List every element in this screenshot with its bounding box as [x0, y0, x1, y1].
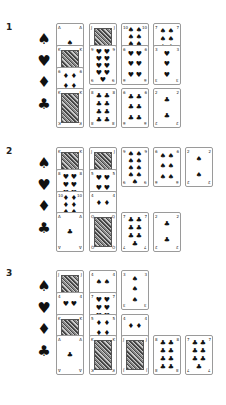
card-index: 8 — [91, 91, 94, 95]
suit-pip-icon: ♣ — [159, 364, 166, 371]
playing-card: 9999♠♠♠♠♠♠♠♠♠ — [121, 147, 149, 187]
diamonds-suit-icon: ♦ — [37, 322, 51, 337]
card-index: J — [91, 150, 92, 154]
playing-card: QQQQ — [89, 212, 117, 252]
section-number: 1 — [6, 22, 12, 32]
card-index: 6 — [123, 121, 126, 125]
card-pips: ♥♥♥♥♥♥♥♥♥ — [95, 49, 111, 81]
suit-pip-icon: ♠ — [191, 156, 207, 163]
card-index: 2 — [155, 215, 158, 219]
playing-card: 9999♥♥♥♥♥♥♥♥♥ — [89, 45, 117, 85]
clubs-suit-icon: ♣ — [37, 344, 51, 359]
card-index: 8 — [176, 338, 179, 342]
suit-pip-icon: ♣ — [95, 101, 102, 108]
card-index: 6 — [79, 70, 82, 74]
card-index: 2 — [187, 180, 190, 184]
card-index: 6 — [123, 78, 126, 82]
suit-pip-icon: ♠ — [131, 179, 138, 186]
card-index: J — [146, 338, 147, 342]
suit-pip-icon: ♥ — [159, 72, 175, 79]
card-index: J — [58, 273, 59, 277]
card-index: 8 — [58, 172, 61, 176]
card-index: 8 — [112, 91, 115, 95]
suit-pip-icon: ♠ — [127, 276, 143, 283]
playing-card: 8888♣♣♣♣♣♣♣♣ — [153, 335, 181, 375]
suit-pip-icon: ♠ — [167, 36, 174, 43]
card-pips: ♠♠♠♠♠♠ — [159, 151, 175, 183]
face-card-portrait — [126, 340, 144, 370]
suit-pip-icon: ♣ — [191, 356, 198, 363]
card-index: 4 — [112, 194, 115, 198]
suit-pip-icon: ♠ — [167, 174, 174, 181]
playing-card: 3333♥♥♥ — [153, 45, 181, 85]
suit-pip-icon: ♣ — [199, 348, 206, 355]
card-index: 4 — [112, 273, 115, 277]
suit-pip-icon: ♠ — [159, 153, 166, 160]
suit-pip-icon: ♥ — [70, 301, 77, 308]
card-index: J — [91, 26, 92, 30]
suit-pip-icon: ♦ — [95, 200, 102, 207]
card-index: 5 — [112, 317, 115, 321]
suit-pip-icon: ♣ — [95, 109, 102, 116]
card-pips: ♠♠♠♠♠♠♠♠♠ — [127, 151, 143, 183]
suit-pip-icon: ♣ — [199, 356, 206, 363]
playing-card: 2222♣♣ — [153, 212, 181, 252]
suit-pip-icon: ♥ — [159, 51, 175, 58]
suit-pip-icon: ♣ — [135, 115, 142, 122]
card-index: 2 — [208, 150, 211, 154]
card-pips: ♣ — [62, 216, 78, 248]
card-index: 2 — [155, 245, 158, 249]
section-number: 3 — [6, 268, 12, 278]
suit-pip-icon: ♣ — [127, 225, 134, 232]
card-index: 6 — [155, 150, 158, 154]
playing-card: KKKK — [89, 335, 117, 375]
card-pips: ♣♣♣♣♣♣♣ — [191, 339, 207, 371]
card-index: 2 — [155, 91, 158, 95]
suit-pip-icon: ♥ — [70, 182, 77, 189]
card-pips: ♣♣♣♣♣♣♣ — [127, 216, 143, 248]
suit-pip-icon: ♥ — [70, 174, 77, 181]
card-index: 7 — [187, 368, 190, 372]
playing-card: 8888♣♣♣♣♣♣♣♣ — [89, 88, 117, 128]
playing-card: 3333♠♠♠ — [121, 270, 149, 310]
card-index: K — [79, 121, 82, 125]
card-index: 2 — [187, 150, 190, 154]
playing-card: AAAA♣ — [56, 212, 84, 252]
diamonds-suit-icon: ♦ — [37, 75, 51, 90]
card-index: A — [79, 26, 82, 30]
card-index: 9 — [123, 150, 126, 154]
card-index: 3 — [144, 273, 147, 277]
suit-pip-icon: ♣ — [103, 109, 110, 116]
card-index: 4 — [91, 273, 94, 277]
card-index: 6 — [176, 150, 179, 154]
card-index: 6 — [58, 70, 61, 74]
suit-pip-icon: ♣ — [135, 94, 142, 101]
card-index: 4 — [123, 317, 126, 321]
card-index: 4 — [79, 295, 82, 299]
suit-pip-icon: ♣ — [135, 233, 142, 240]
suit-pip-icon: ♣ — [103, 117, 110, 124]
card-index: 3 — [176, 48, 179, 52]
card-index: 6 — [144, 91, 147, 95]
suit-pip-icon: ♠ — [167, 28, 174, 35]
card-index: 5 — [91, 317, 94, 321]
card-index: 9 — [91, 48, 94, 52]
card-index: 5 — [112, 172, 115, 176]
card-index: 6 — [144, 78, 147, 82]
card-index: 4 — [58, 295, 61, 299]
card-index: A — [58, 338, 61, 342]
suit-pip-icon: ♥ — [135, 72, 142, 79]
card-pips: ♥♥♥♥♥♥ — [127, 49, 143, 81]
suit-pip-icon: ♠ — [127, 286, 143, 293]
card-index: 6 — [144, 48, 147, 52]
card-index: 9 — [112, 78, 115, 82]
card-index: 7 — [123, 215, 126, 219]
suit-pip-icon: ♠ — [167, 163, 174, 170]
card-index: 3 — [123, 303, 126, 307]
suit-pip-icon: ♣ — [159, 221, 175, 228]
card-index: 3 — [176, 78, 179, 82]
card-index: A — [79, 215, 82, 219]
card-index: 7 — [187, 338, 190, 342]
card-index: K — [112, 368, 115, 372]
suit-pip-icon: ♣ — [159, 356, 166, 363]
